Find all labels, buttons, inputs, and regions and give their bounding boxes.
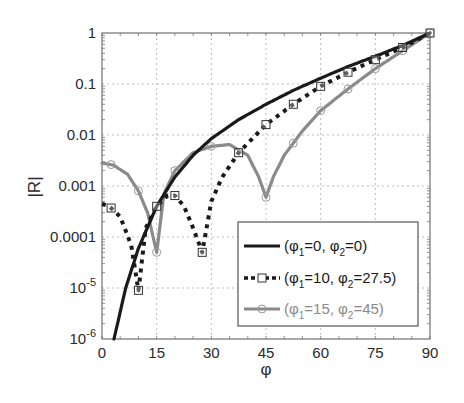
y-axis-tick-labels: 10.10.010.0010.000110-510-6	[50, 24, 96, 347]
y-tick-label: 0.001	[58, 177, 96, 194]
x-tick-label: 75	[367, 344, 384, 361]
x-tick-label: 45	[258, 344, 275, 361]
y-tick-label: 0.01	[67, 126, 96, 143]
square-marker	[399, 43, 407, 51]
x-axis-tick-labels: 0153045607590	[98, 344, 439, 361]
square-marker	[371, 56, 379, 64]
x-tick-label: 0	[98, 344, 106, 361]
y-tick-label: 0.1	[75, 75, 96, 92]
legend: (φ1=0, φ2=0)(φ1=10, φ2=27.5)(φ1=15, φ2=4…	[238, 222, 418, 326]
x-axis-label: φ	[260, 360, 271, 379]
square-marker	[317, 82, 325, 90]
y-tick-label: 0.0001	[50, 228, 96, 245]
square-marker-icon	[258, 274, 266, 282]
y-tick-label: 10-6	[70, 327, 96, 347]
x-tick-label: 15	[148, 344, 165, 361]
square-marker	[153, 202, 161, 210]
square-marker	[198, 248, 206, 256]
x-tick-label: 90	[422, 344, 439, 361]
x-tick-label: 60	[312, 344, 329, 361]
y-tick-label: 1	[88, 24, 96, 41]
square-marker	[107, 204, 115, 212]
square-marker	[134, 286, 142, 294]
square-marker	[289, 100, 297, 108]
x-tick-label: 30	[203, 344, 220, 361]
y-axis-label: |R|	[25, 176, 44, 197]
y-tick-label: 10-5	[70, 276, 96, 296]
square-marker	[262, 121, 270, 129]
square-marker	[171, 192, 179, 200]
line-chart: 10.10.010.0010.000110-510-6 015304560759…	[0, 0, 464, 403]
square-marker	[426, 29, 434, 37]
square-marker	[344, 68, 352, 76]
square-marker	[235, 149, 243, 157]
